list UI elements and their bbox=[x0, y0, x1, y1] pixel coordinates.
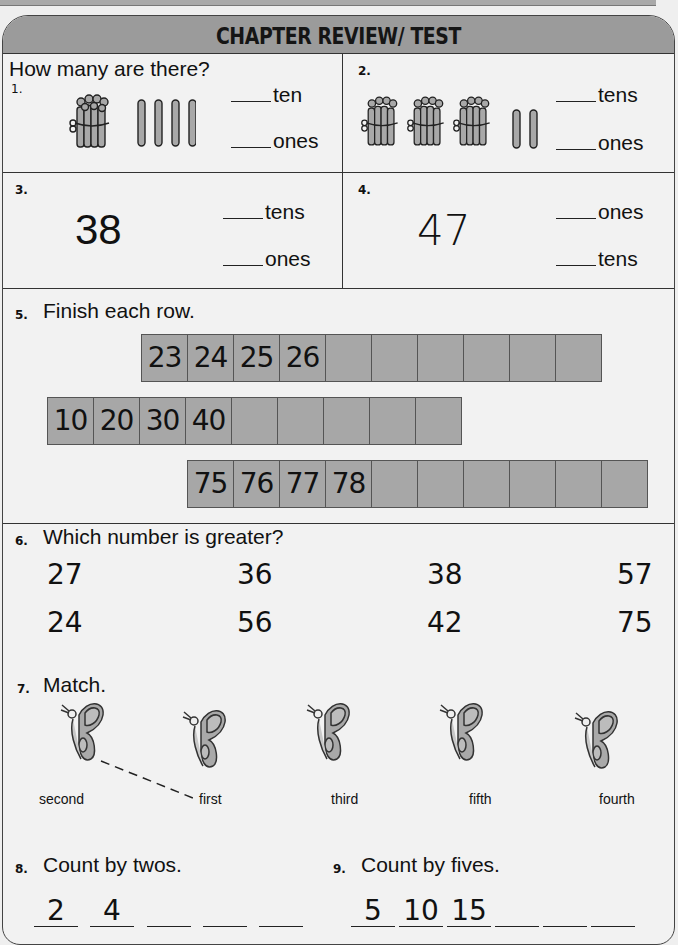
q8-prompt: Count by twos. bbox=[43, 853, 182, 877]
count-slot[interactable]: 5 bbox=[351, 896, 395, 927]
count-slot[interactable] bbox=[495, 896, 539, 927]
ordinal-label[interactable]: third bbox=[331, 791, 358, 807]
count-slot[interactable]: 10 bbox=[399, 896, 443, 927]
count-slot[interactable]: 4 bbox=[90, 896, 134, 927]
ordinal-label[interactable]: second bbox=[39, 791, 84, 807]
count-slot[interactable] bbox=[591, 896, 635, 927]
ordinal-label[interactable]: fifth bbox=[469, 791, 492, 807]
count-slot[interactable] bbox=[147, 896, 191, 927]
count-slot[interactable]: 2 bbox=[34, 896, 78, 927]
top-edge-bar bbox=[0, 0, 656, 6]
worksheet-frame: CHAPTER REVIEW/ TEST How many are there?… bbox=[2, 15, 675, 945]
ordinal-label[interactable]: first bbox=[199, 791, 222, 807]
count-slot[interactable] bbox=[259, 896, 303, 927]
ordinal-label[interactable]: fourth bbox=[599, 791, 635, 807]
count-slot[interactable]: 15 bbox=[447, 896, 491, 927]
count-slot[interactable] bbox=[203, 896, 247, 927]
question-number-9: 9. bbox=[333, 862, 346, 876]
q9-prompt: Count by fives. bbox=[361, 853, 500, 877]
count-slot[interactable] bbox=[543, 896, 587, 927]
question-number-8: 8. bbox=[15, 862, 28, 876]
